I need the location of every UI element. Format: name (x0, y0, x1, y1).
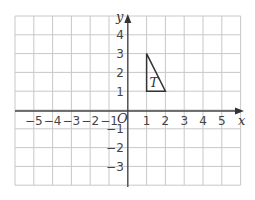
x-tick-label: 4 (199, 114, 207, 128)
x-tick-label: 3 (180, 114, 188, 128)
x-tick-label: −3 (63, 114, 81, 128)
y-axis-label: y (115, 9, 124, 24)
y-tick-label: −3 (106, 160, 124, 174)
x-tick-label: 5 (218, 114, 226, 128)
y-tick-label: 3 (116, 47, 124, 61)
x-axis-label: x (238, 113, 246, 128)
y-tick-label: 4 (116, 28, 124, 42)
x-tick-label: −5 (25, 114, 43, 128)
y-axis-arrow-icon (124, 14, 131, 23)
x-tick-label: −2 (81, 114, 99, 128)
y-tick-label: 1 (116, 85, 124, 99)
x-tick-label: −4 (44, 114, 62, 128)
triangle-label: T (149, 75, 159, 90)
tick-labels: −5−4−3−2−1123451234−1−2−3 (25, 28, 226, 174)
y-tick-label: −1 (106, 122, 124, 136)
y-tick-label: −2 (106, 141, 124, 155)
coordinate-grid: x y O −5−4−3−2−1123451234−1−2−3 T (0, 0, 255, 200)
x-tick-label: 1 (143, 114, 151, 128)
y-tick-label: 2 (116, 66, 124, 80)
axes: x y O (15, 9, 246, 187)
x-tick-label: 2 (162, 114, 170, 128)
